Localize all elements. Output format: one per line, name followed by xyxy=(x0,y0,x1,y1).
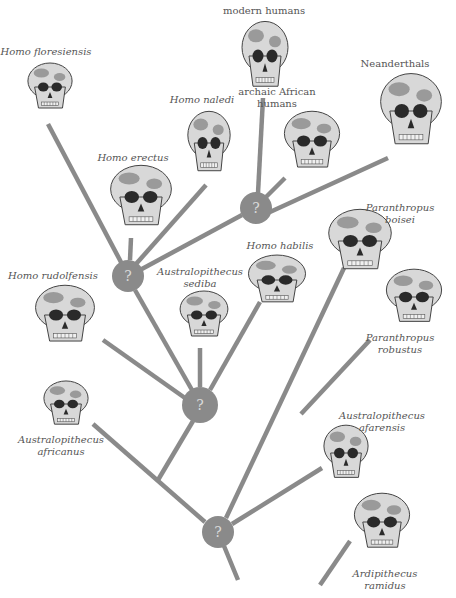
question-mark-text: ? xyxy=(252,200,260,216)
neanderthals-label: Neanderthals xyxy=(361,58,430,70)
label-line: Homo rudolfensis xyxy=(8,270,98,282)
label-line: Homo naledi xyxy=(170,94,235,106)
label-line: Ardipithecus xyxy=(353,568,418,580)
node-c-unknown-ancestor: ? xyxy=(182,387,218,423)
homo-naledi-skull-image xyxy=(188,111,230,170)
label-line: Neanderthals xyxy=(361,58,430,70)
label-line: modern humans xyxy=(223,5,305,17)
homo-habilis-label: Homo habilis xyxy=(247,240,314,252)
branch-c-down xyxy=(158,421,193,480)
branch-rudolfensis xyxy=(103,340,185,398)
label-line: Australopithecus xyxy=(339,410,425,422)
label-line: ramidus xyxy=(353,580,418,592)
node-a-unknown-ancestor: ? xyxy=(240,192,272,224)
label-line: robustus xyxy=(366,344,435,356)
node-b-unknown-ancestor: ? xyxy=(112,260,144,292)
australopithecus-afarensis-label: Australopithecusafarensis xyxy=(339,410,425,434)
label-line: Homo floresiensis xyxy=(1,46,92,58)
label-line: Homo habilis xyxy=(247,240,314,252)
australopithecus-sediba-label: Australopithecussediba xyxy=(157,266,243,290)
label-line: archaic African xyxy=(238,86,315,98)
homo-floresiensis-label: Homo floresiensis xyxy=(1,46,92,58)
branch-root xyxy=(224,546,238,580)
label-line: humans xyxy=(238,98,315,110)
branch-africanus xyxy=(93,424,205,522)
label-line: Australopithecus xyxy=(157,266,243,278)
paranthropus-robustus-skull-image xyxy=(386,269,441,321)
archaic-african-humans-skull-image xyxy=(284,111,339,167)
homo-floresiensis-skull-image xyxy=(28,63,72,108)
paranthropus-robustus-label: Paranthropusrobustus xyxy=(366,332,435,356)
branch-boisei xyxy=(226,268,344,518)
phylogenetic-tree: ???? xyxy=(0,0,456,598)
label-line: Australopithecus xyxy=(18,434,104,446)
label-line: Homo erectus xyxy=(97,152,168,164)
label-line: sediba xyxy=(157,278,243,290)
neanderthals-skull-image xyxy=(381,74,442,144)
ardipithecus-ramidus-label: Ardipithecusramidus xyxy=(353,568,418,592)
homo-habilis-skull-image xyxy=(248,255,305,302)
modern-humans-label: modern humans xyxy=(223,5,305,17)
homo-rudolfensis-label: Homo rudolfensis xyxy=(8,270,98,282)
question-mark-text: ? xyxy=(196,397,204,413)
paranthropus-boisei-label: Paranthropusboisei xyxy=(366,202,435,226)
modern-humans-skull-image xyxy=(242,21,288,86)
australopithecus-sediba-skull-image xyxy=(180,291,228,336)
homo-rudolfensis-skull-image xyxy=(36,285,95,341)
ardipithecus-ramidus-skull-image xyxy=(354,493,409,547)
label-line: africanus xyxy=(18,446,104,458)
homo-naledi-label: Homo naledi xyxy=(170,94,235,106)
question-mark-text: ? xyxy=(124,268,132,284)
branch-erectus xyxy=(130,238,131,260)
branch-ramidus xyxy=(320,541,350,585)
archaic-african-humans-label: archaic Africanhumans xyxy=(238,86,315,110)
question-mark-text: ? xyxy=(214,524,222,540)
branch-robustus xyxy=(301,340,370,414)
label-line: boisei xyxy=(366,214,435,226)
homo-erectus-label: Homo erectus xyxy=(97,152,168,164)
branch-archaic xyxy=(266,178,285,197)
label-line: afarensis xyxy=(339,422,425,434)
label-line: Paranthropus xyxy=(366,332,435,344)
australopithecus-africanus-skull-image xyxy=(44,381,88,424)
node-d-unknown-ancestor: ? xyxy=(202,516,234,548)
label-line: Paranthropus xyxy=(366,202,435,214)
australopithecus-africanus-label: Australopithecusafricanus xyxy=(18,434,104,458)
homo-erectus-skull-image xyxy=(111,165,172,224)
branch-modern-humans xyxy=(258,98,263,193)
